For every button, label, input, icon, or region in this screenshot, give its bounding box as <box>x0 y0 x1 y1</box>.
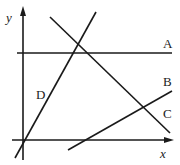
y-axis-label: y <box>4 10 12 25</box>
line-b-label: B <box>163 74 172 89</box>
geometry-diagram: y x A B C D <box>0 0 180 165</box>
y-axis-arrow-icon <box>20 6 26 16</box>
x-axis-arrow-icon <box>164 137 174 143</box>
line-c <box>50 17 170 133</box>
line-c-label: C <box>163 106 172 121</box>
line-d <box>15 12 96 158</box>
x-axis-label: x <box>159 146 166 161</box>
line-a-label: A <box>163 36 173 51</box>
line-d-label: D <box>36 87 45 102</box>
